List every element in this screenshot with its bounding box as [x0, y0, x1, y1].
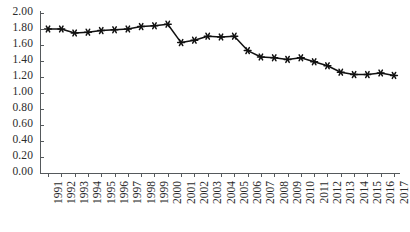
data-point-marker [324, 63, 331, 69]
data-point-marker [71, 30, 78, 36]
data-point-marker [85, 29, 92, 35]
data-point-marker [364, 72, 371, 78]
data-point-marker [191, 37, 198, 43]
data-point-marker [391, 72, 398, 78]
data-point-marker [58, 26, 65, 32]
data-point-marker [98, 28, 105, 34]
data-point-marker [297, 55, 304, 61]
data-point-marker [111, 27, 118, 33]
series-markers [45, 21, 398, 78]
data-point-marker [218, 34, 225, 40]
data-point-marker [351, 72, 358, 78]
data-point-marker [258, 54, 265, 60]
data-point-marker [337, 69, 344, 75]
data-point-marker [271, 55, 278, 61]
data-point-marker [138, 24, 145, 30]
data-point-marker [311, 59, 318, 65]
data-point-marker [204, 33, 211, 39]
data-point-marker [377, 70, 384, 76]
data-point-marker [151, 23, 158, 29]
data-point-marker [284, 56, 291, 62]
data-point-marker [124, 26, 131, 32]
data-point-marker [45, 26, 52, 32]
